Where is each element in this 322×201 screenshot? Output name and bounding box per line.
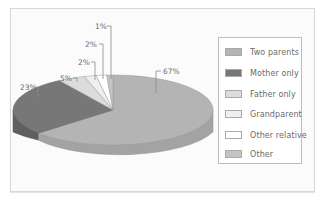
legend-label: Two parents xyxy=(250,48,299,57)
legend-item-other[interactable]: Other xyxy=(225,148,273,160)
swatch-icon xyxy=(225,131,242,139)
svg-text:1%: 1% xyxy=(95,22,107,31)
svg-text:2%: 2% xyxy=(85,40,97,49)
swatch-icon xyxy=(225,90,242,98)
legend-label: Other relative xyxy=(250,131,307,140)
legend-label: Father only xyxy=(250,90,296,99)
legend-label: Mother only xyxy=(250,69,299,78)
legend-label: Other xyxy=(250,150,273,159)
svg-text:23%: 23% xyxy=(20,83,37,92)
legend-item-two-parents[interactable]: Two parents xyxy=(225,46,299,58)
swatch-icon xyxy=(225,48,242,56)
legend-item-grandparent[interactable]: Grandparent xyxy=(225,108,302,120)
swatch-icon xyxy=(225,110,242,118)
legend-item-father-only[interactable]: Father only xyxy=(225,88,296,100)
swatch-icon xyxy=(225,150,242,158)
legend-item-mother-only[interactable]: Mother only xyxy=(225,67,299,79)
svg-text:67%: 67% xyxy=(163,67,180,76)
svg-text:2%: 2% xyxy=(78,58,90,67)
swatch-icon xyxy=(225,69,242,77)
legend-label: Grandparent xyxy=(250,110,302,119)
legend-item-other-relative[interactable]: Other relative xyxy=(225,129,307,141)
chart-legend: Two parents Mother only Father only Gran… xyxy=(218,37,302,164)
svg-text:5%: 5% xyxy=(60,74,72,83)
